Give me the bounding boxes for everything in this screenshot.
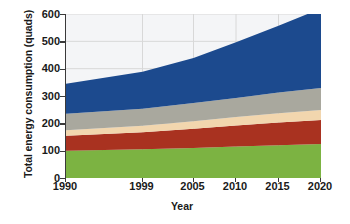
x-tick-label: 1999 [129, 181, 153, 192]
y-tick-label: 600 [26, 9, 60, 20]
y-tick-label: 100 [26, 145, 60, 156]
y-tick-mark [60, 41, 65, 42]
x-tick-mark [65, 178, 66, 182]
x-tick-label: 2020 [308, 181, 332, 192]
stacked-area-svg [66, 14, 321, 178]
y-tick-label: 200 [26, 118, 60, 129]
y-tick-mark [60, 123, 65, 124]
y-tick-label: 500 [26, 36, 60, 47]
x-axis-tick-labels: 199019992005201020152020 [0, 181, 350, 197]
x-tick-mark [235, 178, 236, 182]
x-tick-label: 1990 [53, 181, 77, 192]
y-tick-mark [60, 69, 65, 70]
x-tick-mark [320, 178, 321, 182]
plot-area [65, 14, 320, 178]
y-tick-mark [60, 151, 65, 152]
y-tick-label: 300 [26, 91, 60, 102]
energy-consumption-area-chart: Total energy consumption (quads) 0100200… [0, 0, 350, 224]
y-tick-mark [60, 96, 65, 97]
x-tick-mark [278, 178, 279, 182]
x-tick-mark [193, 178, 194, 182]
x-tick-label: 2015 [265, 181, 289, 192]
x-tick-label: 2005 [180, 181, 204, 192]
x-axis-title: Year [0, 200, 350, 212]
y-tick-mark [60, 14, 65, 15]
x-axis-title-text: Year [171, 200, 193, 212]
x-tick-mark [142, 178, 143, 182]
y-tick-label: 400 [26, 63, 60, 74]
x-tick-label: 2010 [223, 181, 247, 192]
